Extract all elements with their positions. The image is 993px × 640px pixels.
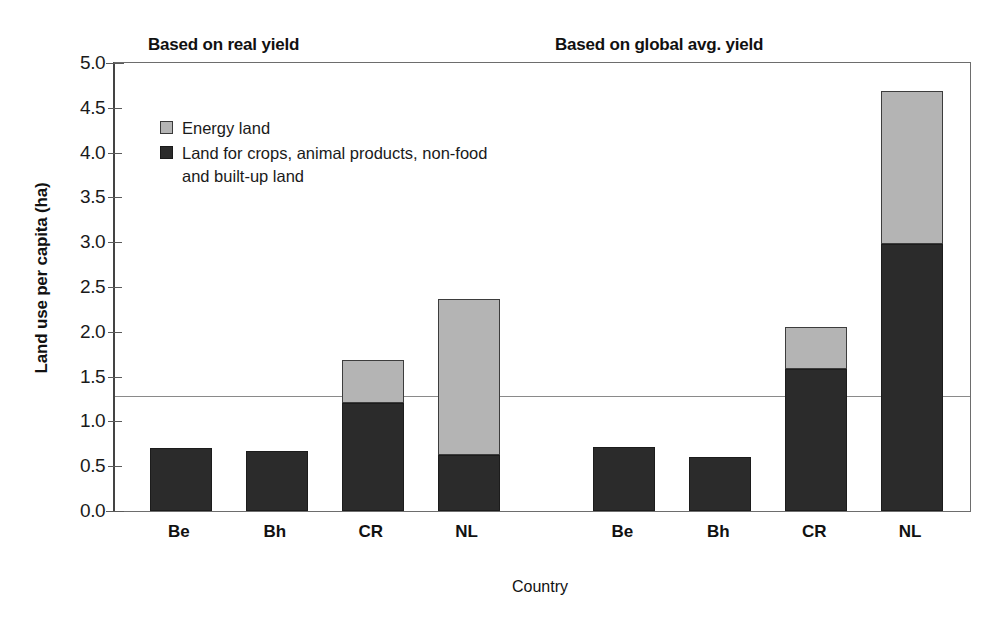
legend-swatch-icon [160,121,173,134]
y-tick-label: 3.5 [80,186,105,208]
bar-nl-global [881,91,943,511]
bar-segment-land [689,457,751,511]
y-tick-mark [108,332,122,333]
bar-segment-land [785,369,847,511]
bar-cr-real [342,360,404,511]
y-tick-label: 1.0 [80,410,105,432]
x-tick-label: NL [455,522,478,542]
y-tick-mark [108,197,122,198]
x-tick-label: CR [802,522,827,542]
y-tick-mark [108,287,122,288]
bar-nl-real [438,299,500,511]
bar-segment-land [593,447,655,512]
y-tick-label: 2.5 [80,276,105,298]
y-tick-label: 4.0 [80,142,105,164]
chart-figure: Based on real yield Based on global avg.… [0,0,993,640]
bar-segment-energy [342,360,404,402]
chart-legend: Energy landLand for crops, animal produc… [160,117,487,190]
y-tick-label: 5.0 [80,52,105,74]
panel-title-right: Based on global avg. yield [555,35,763,55]
y-tick-label: 3.0 [80,231,105,253]
y-tick-mark [108,466,122,467]
bar-be-global [593,447,655,512]
x-tick-label: Be [168,522,190,542]
y-tick-mark [108,153,122,154]
y-tick-label: 0.5 [80,455,105,477]
legend-swatch-icon [160,146,173,159]
bar-segment-energy [438,299,500,455]
bar-segment-energy [881,91,943,244]
bar-segment-land [246,451,308,511]
x-tick-label: CR [358,522,383,542]
y-tick-mark [106,63,124,64]
y-axis-title: Land use per capita (ha) [32,68,52,488]
y-tick-mark [108,421,122,422]
bar-segment-energy [785,327,847,369]
panel-title-left: Based on real yield [148,35,299,55]
bar-bh-real [246,451,308,511]
y-tick-label: 4.5 [80,97,105,119]
x-tick-label: Be [612,522,634,542]
x-tick-label: Bh [263,522,286,542]
x-tick-label: Bh [707,522,730,542]
bar-bh-global [689,457,751,511]
bar-segment-land [881,244,943,511]
legend-label: Energy land [182,117,270,140]
y-tick-label: 1.5 [80,366,105,388]
legend-item: Land for crops, animal products, non-foo… [160,142,487,188]
y-tick-label: 0.0 [80,500,105,522]
bar-segment-land [342,403,404,511]
y-tick-mark [108,377,122,378]
legend-label: Land for crops, animal products, non-foo… [182,142,487,188]
bar-cr-global [785,327,847,511]
bar-segment-land [438,455,500,511]
legend-item: Energy land [160,117,487,140]
y-tick-label: 2.0 [80,321,105,343]
bar-be-real [150,448,212,511]
x-axis-title: Country [110,578,970,596]
y-tick-mark [106,511,124,512]
y-tick-mark [108,108,122,109]
bar-segment-land [150,448,212,511]
y-tick-mark [108,242,122,243]
x-tick-label: NL [899,522,922,542]
